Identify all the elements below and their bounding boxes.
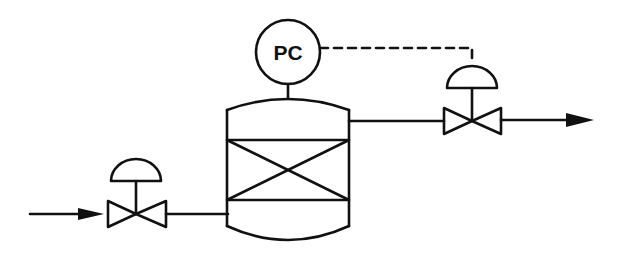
diagram-svg: PC [0, 0, 617, 263]
signal-line [320, 48, 472, 62]
process-diagram: PC [0, 0, 617, 263]
valve-actuator-icon [447, 66, 497, 88]
pressure-controller: PC [256, 20, 320, 84]
valve-actuator-icon [111, 159, 161, 181]
controller-label: PC [273, 41, 302, 64]
outlet-control-valve [444, 66, 501, 134]
packed-vessel [227, 99, 349, 240]
inlet-stream-arrow [30, 208, 104, 220]
inlet-control-valve [108, 159, 166, 227]
outlet-stream-arrow [501, 113, 594, 127]
